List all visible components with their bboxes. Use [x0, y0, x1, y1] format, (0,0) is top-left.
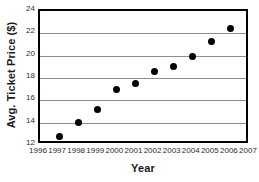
- data-point: [208, 38, 215, 45]
- data-point: [227, 25, 234, 32]
- data-points-layer: [40, 11, 246, 141]
- data-point: [170, 63, 177, 70]
- data-point: [94, 106, 101, 113]
- x-axis-tick-label: 2004: [182, 146, 200, 156]
- y-axis-title: Avg. Ticket Price ($): [0, 0, 22, 150]
- scatter-chart: Avg. Ticket Price ($) 12141618202224 199…: [0, 0, 259, 182]
- x-axis-tick-label: 1996: [29, 146, 47, 156]
- data-point: [132, 80, 139, 87]
- y-axis-tick-label: 20: [26, 50, 35, 58]
- data-point: [189, 53, 196, 60]
- data-point: [56, 133, 63, 140]
- y-axis-tick-label: 18: [26, 72, 35, 80]
- data-point: [113, 86, 120, 93]
- x-axis-tick-label: 2000: [105, 146, 123, 156]
- y-axis-tick-label: 24: [26, 5, 35, 13]
- y-axis-tick-labels: 12141618202224: [20, 0, 36, 152]
- x-axis-tick-label: 2006: [220, 146, 238, 156]
- x-axis-tick-label: 2005: [201, 146, 219, 156]
- y-axis-title-label: Avg. Ticket Price ($): [5, 22, 17, 129]
- data-point: [151, 68, 158, 75]
- y-axis-tick-label: 14: [26, 117, 35, 125]
- x-axis-title: Year: [38, 162, 248, 174]
- x-axis-tick-label: 2003: [163, 146, 181, 156]
- y-axis-tick-label: 16: [26, 94, 35, 102]
- y-axis-tick-label: 22: [26, 27, 35, 35]
- x-axis-tick-labels: 1996199719981999200020012002200320042005…: [38, 146, 248, 158]
- x-axis-tick-label: 1999: [86, 146, 104, 156]
- x-axis-tick-label: 2002: [144, 146, 162, 156]
- x-axis-tick-label: 2001: [125, 146, 143, 156]
- x-axis-tick-label: 2007: [239, 146, 257, 156]
- data-point: [75, 119, 82, 126]
- x-axis-tick-label: 1997: [48, 146, 66, 156]
- plot-area: [38, 9, 248, 143]
- x-axis-tick-label: 1998: [67, 146, 85, 156]
